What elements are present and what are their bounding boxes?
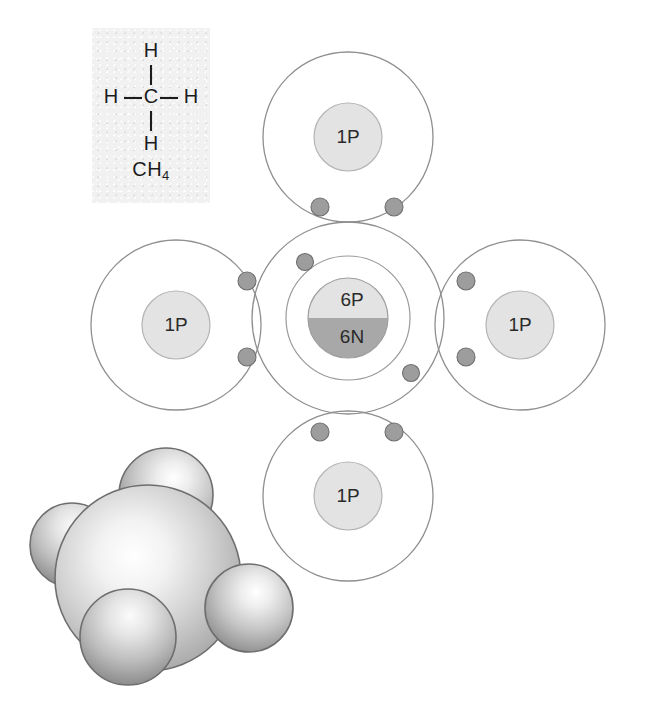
- molecular-formula-text: CH: [132, 158, 162, 180]
- molecular-formula-subscript: 4: [162, 168, 170, 183]
- structural-formula-inset: H H C H H CH4: [92, 28, 210, 203]
- model-hydrogen-right: [205, 564, 293, 652]
- molecular-formula-label: CH4: [92, 158, 210, 181]
- formula-atom-h-right: H: [184, 85, 198, 107]
- formula-atom-h-bottom: H: [144, 132, 158, 154]
- formula-atom-h-left: H: [104, 85, 118, 107]
- formula-atom-c-center: C: [144, 85, 158, 107]
- model-hydrogen-lower: [80, 589, 176, 685]
- formula-atom-h-top: H: [144, 39, 158, 61]
- methane-bonding-figure: 1P 1P 1P 1P 6P 6N: [0, 0, 657, 724]
